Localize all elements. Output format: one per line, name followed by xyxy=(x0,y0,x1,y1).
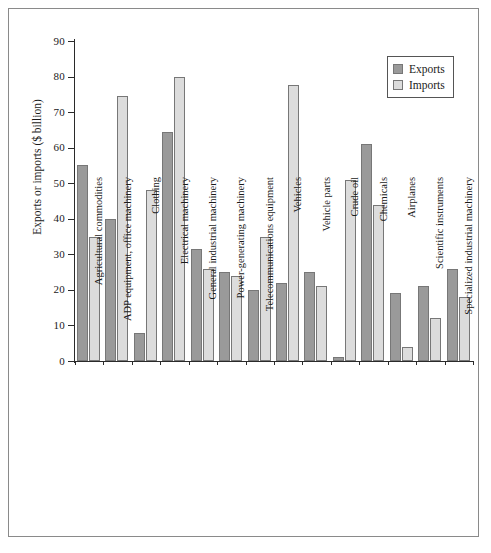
category-label: Telecommunications equipment xyxy=(264,177,275,367)
bar-exports xyxy=(219,272,230,361)
category-label: Clothing xyxy=(150,177,161,367)
y-axis-tick xyxy=(68,290,75,291)
bar-exports xyxy=(276,283,287,361)
y-axis-tick-value: 10 xyxy=(25,320,65,331)
y-axis-tick xyxy=(68,361,75,362)
category-label: Crude oil xyxy=(349,177,360,367)
category-label: General industrial machinery xyxy=(207,177,218,367)
legend-label-imports: Imports xyxy=(409,79,445,91)
bar-exports xyxy=(418,286,429,361)
y-axis-tick xyxy=(68,254,75,255)
figure-border: Exports or imports ($ billion) 010203040… xyxy=(8,8,479,537)
category-label: Vehicle parts xyxy=(321,177,332,367)
y-axis-tick-value: 90 xyxy=(25,36,65,47)
y-axis-tick-label: 40 xyxy=(19,213,65,224)
legend-item-exports: Exports xyxy=(393,61,445,77)
y-axis-tick-label: 30 xyxy=(19,249,65,260)
bar-exports xyxy=(162,132,173,361)
bar-exports xyxy=(361,144,372,361)
chart-legend: Exports Imports xyxy=(387,56,454,98)
bar-exports xyxy=(105,219,116,361)
y-axis-tick xyxy=(68,77,75,78)
category-label: Chemicals xyxy=(378,177,389,367)
y-axis-tick xyxy=(68,325,75,326)
y-axis-tick-label: 90 xyxy=(19,36,65,47)
y-axis-tick-label: 80 xyxy=(19,71,65,82)
legend-item-imports: Imports xyxy=(393,77,445,93)
x-axis-tick xyxy=(75,361,76,365)
y-axis-tick-value: 40 xyxy=(25,213,65,224)
y-axis-tick-label: 10 xyxy=(19,320,65,331)
bar-exports xyxy=(248,290,259,361)
category-label: ADP equipment, office machinery xyxy=(122,177,133,367)
y-axis-tick-value: 30 xyxy=(25,249,65,260)
bar-exports xyxy=(304,272,315,361)
y-axis-tick-value: 0 xyxy=(25,356,65,367)
y-axis-tick-label: 60 xyxy=(19,142,65,153)
y-axis-tick-value: 70 xyxy=(25,107,65,118)
y-axis-tick-value: 60 xyxy=(25,142,65,153)
y-axis-tick-value: 20 xyxy=(25,284,65,295)
category-label: Vehicles xyxy=(292,177,303,367)
bar-exports xyxy=(191,249,202,361)
bar-exports xyxy=(134,333,145,361)
y-axis-tick xyxy=(68,112,75,113)
y-axis-tick-label: 70 xyxy=(19,107,65,118)
bar-exports xyxy=(447,269,458,361)
legend-label-exports: Exports xyxy=(409,63,445,75)
category-label: Electrical machinery xyxy=(179,177,190,367)
y-axis-tick-label: 0 xyxy=(19,356,65,367)
y-axis-title: Exports or imports ($ billion) xyxy=(31,67,43,267)
category-label: Scientific instruments xyxy=(434,177,445,367)
y-axis-tick-value: 50 xyxy=(25,178,65,189)
legend-swatch-imports-icon xyxy=(393,80,403,90)
legend-swatch-exports-icon xyxy=(393,64,403,74)
y-axis-tick-label: 50 xyxy=(19,178,65,189)
y-axis-tick xyxy=(68,148,75,149)
category-label: Agricultural commodities xyxy=(93,177,104,367)
y-axis-tick xyxy=(68,41,75,42)
bar-exports xyxy=(390,293,401,361)
bar-exports xyxy=(333,357,344,361)
bar-exports xyxy=(77,165,88,361)
y-axis-tick-label: 20 xyxy=(19,284,65,295)
category-label: Specialized industrial machinery xyxy=(463,177,474,367)
category-label: Power-generating machinery xyxy=(235,177,246,367)
y-axis-tick xyxy=(68,219,75,220)
category-label: Airplanes xyxy=(406,177,417,367)
y-axis-tick xyxy=(68,183,75,184)
y-axis-tick-value: 80 xyxy=(25,71,65,82)
